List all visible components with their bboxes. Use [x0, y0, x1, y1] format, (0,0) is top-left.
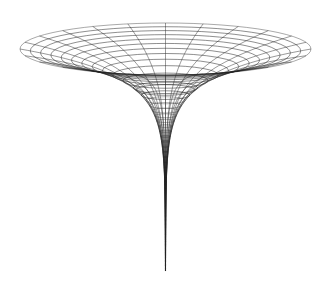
meridian-line: [166, 72, 239, 271]
meridian-line: [20, 49, 165, 271]
meridian-line: [25, 56, 166, 271]
meridian-line: [93, 72, 166, 271]
funnel-wireframe-surface: [0, 0, 331, 283]
meridian-lines: [20, 23, 311, 271]
meridian-line: [93, 26, 166, 270]
meridian-line: [39, 62, 165, 271]
meridian-line: [166, 26, 239, 270]
meridian-line: [166, 62, 292, 271]
meridian-line: [166, 56, 307, 271]
funnel-wireframe-figure: [0, 0, 331, 283]
meridian-line: [166, 49, 311, 271]
